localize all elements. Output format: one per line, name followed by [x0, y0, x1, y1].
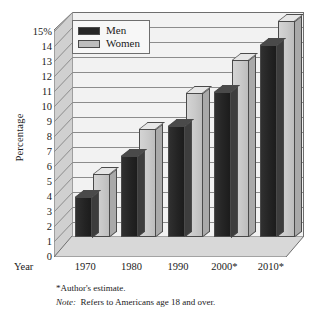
y-axis-tick-6: 6 — [47, 162, 52, 172]
y-axis-tick-9: 9 — [47, 117, 52, 127]
chart-legend: MenWomen — [72, 20, 150, 54]
y-axis-tick-8: 8 — [47, 132, 52, 142]
bar-side-face — [203, 88, 210, 237]
legend-label-women: Women — [106, 38, 140, 49]
y-axis-tick-14: 14 — [42, 42, 53, 52]
bar-side-face — [138, 151, 145, 237]
x-axis-tick-1980: 1980 — [121, 261, 142, 272]
bar-men-1970 — [75, 197, 92, 238]
y-axis-tick-15: 15% — [33, 27, 52, 37]
y-axis-tick-labels: 0123456789101112131415% — [20, 12, 52, 257]
bar-side-face — [231, 86, 238, 237]
x-axis-title: Year — [14, 261, 33, 272]
y-axis-tick-11: 11 — [42, 87, 52, 97]
bar-side-face — [92, 191, 99, 237]
bar-men-1980 — [121, 156, 138, 237]
legend-label-men: Men — [106, 25, 126, 36]
footnote-note-label: Note: — [56, 297, 76, 307]
y-axis-tick-5: 5 — [47, 177, 52, 187]
x-axis-tick-1990: 1990 — [168, 261, 189, 272]
footnote-note-text: Refers to Americans age 18 and over. — [81, 297, 216, 307]
bar-men-2000 — [214, 92, 231, 238]
y-axis-tick-10: 10 — [42, 102, 53, 112]
bar-men-2010 — [260, 45, 277, 237]
bar-side-face — [277, 40, 284, 237]
bar-side-face — [185, 121, 192, 237]
bar-front-face — [168, 126, 185, 237]
y-axis-tick-13: 13 — [42, 57, 53, 67]
bar-front-face — [75, 197, 92, 238]
y-axis-tick-3: 3 — [47, 207, 52, 217]
y-axis-tick-0: 0 — [47, 252, 52, 262]
legend-swatch-women — [78, 40, 100, 48]
chart-footnotes: *Author's estimate. Note: Refers to Amer… — [56, 281, 312, 309]
bar-side-face — [295, 16, 302, 237]
bar-side-face — [249, 55, 256, 237]
x-axis-tick-2000: 2000* — [211, 261, 237, 272]
y-axis-tick-1: 1 — [47, 237, 52, 247]
legend-item-women: Women — [78, 37, 140, 50]
legend-item-men: Men — [78, 24, 140, 37]
footnote-note: Note: Refers to Americans age 18 and ove… — [56, 295, 312, 309]
bar-front-face — [214, 92, 231, 238]
x-axis-tick-2010: 2010* — [258, 261, 284, 272]
x-axis-tick-1970: 1970 — [75, 261, 96, 272]
legend-swatch-men — [78, 27, 100, 35]
bar-front-face — [260, 45, 277, 237]
bar-chart-figure: Percentage 0123456789101112131415% Year … — [0, 0, 318, 322]
bar-men-1990 — [168, 126, 185, 237]
y-axis-tick-2: 2 — [47, 222, 52, 232]
bar-side-face — [156, 124, 163, 237]
x-axis-tick-labels: 1970198019902000*2010* — [54, 261, 306, 275]
y-axis-tick-12: 12 — [42, 72, 53, 82]
bar-front-face — [121, 156, 138, 237]
y-axis-tick-4: 4 — [47, 192, 52, 202]
bar-side-face — [110, 169, 117, 237]
footnote-estimate: *Author's estimate. — [56, 281, 312, 295]
y-axis-tick-7: 7 — [47, 147, 52, 157]
